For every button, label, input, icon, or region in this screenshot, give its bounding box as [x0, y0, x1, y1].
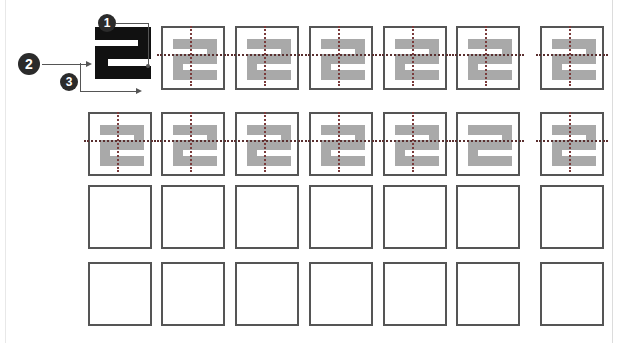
grid-cell[interactable]	[309, 112, 373, 176]
glyph-stroke-bottom	[552, 125, 596, 135]
digit-2-grey-glyph	[247, 39, 291, 80]
symmetry-axis-horizontal	[305, 140, 377, 142]
digit-2-grey-glyph	[321, 125, 365, 166]
symmetry-axis-horizontal	[84, 140, 156, 142]
glyph-stroke-bottom	[173, 39, 217, 49]
glyph-stroke-bottom	[395, 39, 439, 49]
glyph-stroke-bottom	[395, 125, 439, 135]
grid-cell[interactable]	[383, 185, 447, 249]
grid-cell[interactable]	[235, 185, 299, 249]
digit-2-grey-glyph	[173, 125, 217, 166]
symmetry-axis-horizontal	[379, 140, 451, 142]
glyph-stroke-bottom	[468, 125, 512, 135]
glyph-stroke-bottom	[173, 125, 217, 135]
glyph-stroke-bottom	[468, 39, 512, 49]
symmetry-axis-horizontal	[536, 54, 608, 56]
symmetry-axis-vertical	[569, 112, 571, 172]
leader-arrowhead-3	[136, 88, 142, 94]
glyph-stroke-bottom	[552, 39, 596, 49]
digit-2-grey-glyph	[173, 39, 217, 80]
digit-2-grey-glyph	[552, 125, 596, 166]
grid-cell[interactable]	[456, 262, 520, 326]
digit-2-grey-glyph	[247, 125, 291, 166]
callout-marker-3[interactable]: 3	[60, 73, 78, 91]
symmetry-axis-horizontal	[157, 140, 229, 142]
callout-label-2: 2	[25, 56, 33, 72]
symmetry-axis-vertical	[412, 112, 414, 172]
grid-cell[interactable]	[309, 262, 373, 326]
reference-digit-2-glyph	[95, 27, 151, 79]
grid-cell[interactable]	[383, 262, 447, 326]
glyph-stroke-bottom	[247, 39, 291, 49]
leader-line-3-vertical	[80, 63, 81, 92]
digit-2-grey-glyph	[468, 39, 512, 80]
left-margin-rule	[5, 0, 6, 343]
symmetry-axis-vertical	[485, 26, 487, 86]
grid-cell[interactable]	[456, 112, 520, 176]
leader-line-3-horizontal	[80, 91, 136, 92]
grid-cell[interactable]	[161, 26, 225, 90]
digit-2-grey-glyph	[468, 125, 512, 166]
worksheet-page: 1 2 3	[0, 0, 624, 343]
symmetry-axis-horizontal	[536, 140, 608, 142]
leader-line-1-horizontal	[116, 23, 149, 24]
digit-2-grey-glyph	[552, 39, 596, 80]
grid-cell[interactable]	[88, 112, 152, 176]
grid-cell[interactable]	[235, 112, 299, 176]
grid-cell[interactable]	[540, 26, 604, 90]
leader-arrowhead-2	[86, 61, 92, 67]
leader-endpoint-1	[146, 64, 150, 68]
grid-cell[interactable]	[88, 262, 152, 326]
digit-2-grey-glyph	[100, 125, 144, 166]
glyph-stroke-bottom	[321, 125, 365, 135]
callout-marker-2[interactable]: 2	[18, 53, 40, 75]
grid-cell[interactable]	[540, 262, 604, 326]
grid-cell[interactable]	[161, 262, 225, 326]
symmetry-axis-vertical	[412, 26, 414, 86]
glyph-stroke-bottom	[321, 39, 365, 49]
grid-cell[interactable]	[309, 26, 373, 90]
leader-line-1-vertical	[148, 23, 149, 65]
grid-cell[interactable]	[235, 262, 299, 326]
glyph-stroke-bottom	[100, 125, 144, 135]
callout-marker-1[interactable]: 1	[98, 14, 116, 32]
grid-cell[interactable]	[456, 26, 520, 90]
symmetry-axis-vertical	[190, 112, 192, 172]
symmetry-axis-horizontal	[157, 54, 229, 56]
glyph-stroke-bottom	[247, 125, 291, 135]
symmetry-axis-horizontal	[452, 140, 524, 142]
digit-2-grey-glyph	[395, 125, 439, 166]
symmetry-axis-horizontal	[379, 54, 451, 56]
grid-cell[interactable]	[309, 185, 373, 249]
grid-cell[interactable]	[540, 185, 604, 249]
symmetry-axis-horizontal	[305, 54, 377, 56]
grid-cell[interactable]	[383, 112, 447, 176]
symmetry-axis-vertical	[190, 26, 192, 86]
symmetry-axis-vertical	[569, 26, 571, 86]
grid-cell[interactable]	[540, 112, 604, 176]
grid-cell[interactable]	[235, 26, 299, 90]
right-margin-rule	[612, 0, 613, 343]
symmetry-axis-vertical	[264, 112, 266, 172]
callout-label-1: 1	[104, 16, 111, 30]
symmetry-axis-vertical	[338, 112, 340, 172]
symmetry-axis-vertical	[338, 26, 340, 86]
grid-cell[interactable]	[161, 185, 225, 249]
callout-label-3: 3	[66, 75, 73, 89]
digit-2-grey-glyph	[395, 39, 439, 80]
grid-cell[interactable]	[383, 26, 447, 90]
symmetry-axis-vertical	[264, 26, 266, 86]
symmetry-axis-vertical	[117, 112, 119, 172]
digit-2-grey-glyph	[321, 39, 365, 80]
symmetry-axis-horizontal	[452, 54, 524, 56]
symmetry-axis-horizontal	[231, 140, 303, 142]
grid-cell[interactable]	[161, 112, 225, 176]
grid-cell[interactable]	[456, 185, 520, 249]
symmetry-axis-horizontal	[231, 54, 303, 56]
grid-cell[interactable]	[88, 185, 152, 249]
